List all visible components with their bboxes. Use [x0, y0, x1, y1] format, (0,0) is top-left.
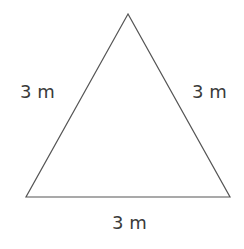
- right-side-length-label: 3 m: [192, 83, 227, 101]
- bottom-side-length-label: 3 m: [112, 214, 147, 232]
- left-side-length-label: 3 m: [20, 83, 55, 101]
- triangle-diagram: 3 m 3 m 3 m: [0, 0, 244, 249]
